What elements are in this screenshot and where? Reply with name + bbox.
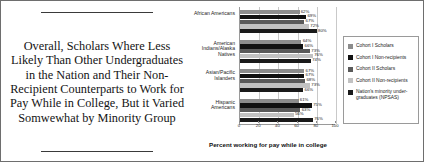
bar <box>240 29 317 33</box>
bar <box>240 74 304 78</box>
legend-item[interactable]: Cohort II Scholars <box>348 66 415 72</box>
x-tick-label: 20 <box>256 123 261 128</box>
bar <box>240 15 306 19</box>
bar <box>240 10 300 14</box>
title-block: Overall, Scholars Where Less Likely Than… <box>5 4 189 158</box>
gridline <box>336 7 337 124</box>
x-tick-label: 40 <box>275 123 280 128</box>
chart-legend: Cohort I ScholarsCohort I Non-recipients… <box>343 36 419 124</box>
bar <box>240 69 304 73</box>
legend-label: Cohort II Scholars <box>356 66 395 72</box>
chart-panel: African AmericansAmerican Indians/Alaska… <box>191 3 423 161</box>
bar <box>240 59 311 63</box>
bar <box>240 44 303 48</box>
bar-value-label: 56% <box>295 112 304 116</box>
plot-area: 62%69%67%72%80%64%66%73%76%74%67%67%68%7… <box>239 7 335 125</box>
bar <box>240 113 294 117</box>
plot-wrapper: African AmericansAmerican Indians/Alaska… <box>191 7 337 133</box>
category-label: Asian/Pacific Islanders <box>191 70 235 82</box>
bar-value-label: 61% <box>300 98 309 102</box>
category-label: Hispanic Americans <box>191 100 235 112</box>
x-tick-label: 60 <box>294 123 299 128</box>
bar <box>240 49 310 53</box>
bar-value-label: 74% <box>312 58 321 62</box>
legend-swatch-icon <box>348 78 353 83</box>
figure-page: Overall, Scholars Where Less Likely Than… <box>0 0 424 162</box>
bar-value-label: 75% <box>313 103 322 107</box>
legend-swatch-icon <box>348 44 353 49</box>
bar <box>240 54 313 58</box>
x-axis: 020406080100 <box>239 121 335 130</box>
legend-item[interactable]: Cohort I Scholars <box>348 43 415 49</box>
bar-value-label: 80% <box>318 29 327 33</box>
legend-item[interactable]: Nation's minority under-graduates (NPSAS… <box>348 89 415 100</box>
legend-label: Cohort II Non-recipients <box>356 78 408 84</box>
title-rule-bottom <box>41 151 153 152</box>
legend-swatch-icon <box>348 55 353 60</box>
bar <box>240 40 301 44</box>
bar <box>240 108 300 112</box>
legend-item[interactable]: Cohort I Non-recipients <box>348 55 415 61</box>
x-tick-label: 80 <box>313 123 318 128</box>
category-axis-labels: African AmericansAmerican Indians/Alaska… <box>191 7 237 125</box>
x-tick-label: 100 <box>331 123 338 128</box>
bar <box>240 99 299 103</box>
bar <box>240 79 305 83</box>
legend-label: Nation's minority under-graduates (NPSAS… <box>356 89 415 100</box>
legend-item[interactable]: Cohort II Non-recipients <box>348 78 415 84</box>
x-axis-title: Percent working for pay while in college <box>193 141 343 148</box>
legend-swatch-icon <box>348 67 353 72</box>
x-tick-label: 0 <box>238 123 240 128</box>
bar-value-label: 66% <box>305 88 314 92</box>
bar <box>240 83 310 87</box>
page-title: Overall, Scholars Where Less Likely Than… <box>5 13 189 151</box>
category-label: American Indians/Alaska Natives <box>191 41 235 59</box>
bar <box>240 24 309 28</box>
category-label: African Americans <box>191 11 235 17</box>
legend-label: Cohort I Non-recipients <box>356 55 406 61</box>
bar <box>240 88 303 92</box>
legend-label: Cohort I Scholars <box>356 43 394 49</box>
legend-swatch-icon <box>348 90 353 95</box>
bar <box>240 20 304 24</box>
